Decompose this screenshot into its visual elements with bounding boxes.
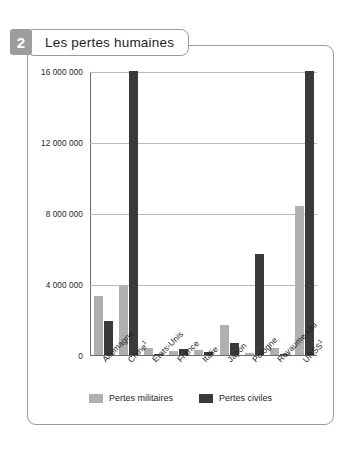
bar-civiles [255, 254, 264, 355]
legend-label: Pertes militaires [109, 393, 173, 403]
bar-group [191, 71, 216, 355]
y-axis-tick-label: 12 000 000 [41, 139, 83, 148]
bar-civiles [305, 71, 314, 355]
plot-area: 04 000 0008 000 00012 000 00016 000 000 [90, 72, 317, 356]
bar-civiles [129, 71, 138, 355]
bar-group [141, 71, 166, 355]
y-axis-tick-label: 8 000 000 [46, 210, 83, 219]
bar-group [166, 71, 191, 355]
y-axis-tick-label: 4 000 000 [46, 281, 83, 290]
figure-number-badge: 2 [10, 29, 32, 55]
y-axis-tick-label: 0 [78, 352, 83, 361]
legend-swatch [199, 394, 213, 403]
legend-label: Pertes civiles [219, 393, 272, 403]
bar-group [242, 71, 267, 355]
bar-militaires [94, 296, 103, 355]
figure-title-block: 2 Les pertes humaines [10, 27, 189, 57]
bar-militaires [220, 325, 229, 355]
bar-group [267, 71, 292, 355]
bar-group [91, 71, 116, 355]
legend-swatch [89, 394, 103, 403]
bar-group [217, 71, 242, 355]
bar-group [116, 71, 141, 355]
chart-legend: Pertes militairesPertes civiles [27, 393, 334, 403]
legend-item: Pertes civiles [199, 393, 272, 403]
legend-item: Pertes militaires [89, 393, 173, 403]
chart-container: 04 000 0008 000 00012 000 00016 000 000 … [27, 45, 334, 425]
x-axis-labels: AllemagneChine1États-UnisFranceItalieJap… [91, 357, 317, 427]
bar-group [292, 71, 317, 355]
figure-title: Les pertes humaines [26, 29, 189, 56]
y-axis-tick-label: 16 000 000 [41, 68, 83, 77]
bar-groups [91, 71, 317, 355]
